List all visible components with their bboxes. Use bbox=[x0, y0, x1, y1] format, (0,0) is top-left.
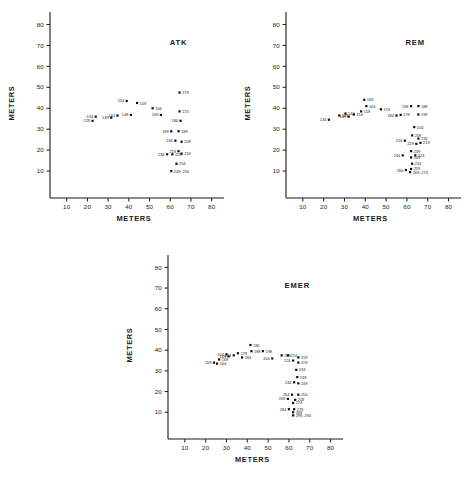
data-point-label: 229 bbox=[407, 141, 414, 146]
data-point-label: 214 bbox=[396, 138, 403, 143]
data-point-label: 194 bbox=[253, 343, 260, 348]
data-point-marker bbox=[177, 150, 179, 152]
data-point-label: 189 bbox=[421, 104, 428, 109]
data-point-marker bbox=[95, 116, 97, 118]
data-point-marker bbox=[297, 394, 299, 396]
data-point: 159 bbox=[136, 101, 146, 106]
scatter-plot-rem: 10203040506070801020304050607080METERSME… bbox=[236, 0, 473, 240]
x-tick-label: 70 bbox=[306, 444, 314, 451]
data-point-label: 184 bbox=[387, 113, 394, 118]
data-point-marker bbox=[417, 113, 419, 115]
data-point-label: 144 bbox=[108, 113, 115, 118]
y-tick-label: 10 bbox=[155, 408, 163, 415]
data-point-label: 134 bbox=[320, 117, 327, 122]
data-point-label: 189 bbox=[254, 349, 261, 354]
data-point-label: 169 bbox=[367, 97, 374, 102]
data-point-marker bbox=[410, 150, 412, 152]
data-point-marker bbox=[410, 156, 412, 158]
x-tick-label: 60 bbox=[403, 203, 411, 210]
data-point: 169 bbox=[363, 97, 373, 102]
y-tick-label: 80 bbox=[155, 264, 163, 271]
data-point-marker bbox=[170, 130, 172, 132]
data-point: 249 bbox=[297, 381, 307, 386]
y-tick-label: 80 bbox=[37, 21, 45, 28]
x-tick-label: 40 bbox=[244, 444, 252, 451]
data-point-marker bbox=[160, 114, 162, 116]
x-tick-label: 60 bbox=[285, 444, 293, 451]
data-point-label: 249 bbox=[414, 155, 421, 160]
data-point-marker bbox=[181, 141, 183, 143]
data-point: 164 bbox=[365, 104, 376, 109]
data-point: 169 bbox=[152, 112, 162, 117]
data-point-label: 149 bbox=[340, 114, 347, 119]
data-point: 244 bbox=[394, 153, 404, 158]
data-point-label: 199 bbox=[162, 129, 169, 134]
data-point-label: 199 bbox=[266, 349, 273, 354]
data-point-label: 229 bbox=[301, 360, 308, 365]
data-point-marker bbox=[365, 105, 367, 107]
figure-root: 10203040506070801020304050607080METERSME… bbox=[0, 0, 473, 481]
data-point: 229 bbox=[407, 141, 417, 146]
data-point-marker bbox=[281, 354, 283, 356]
data-point-marker bbox=[292, 402, 294, 404]
data-point-label: 189 bbox=[181, 129, 188, 134]
y-axis-title: METERS bbox=[125, 328, 134, 363]
data-point-marker bbox=[91, 120, 93, 122]
data-point-marker bbox=[170, 170, 172, 172]
data-point-marker bbox=[292, 414, 294, 416]
data-point-marker bbox=[411, 134, 413, 136]
y-tick-label: 10 bbox=[273, 167, 281, 174]
data-point-label: 204 bbox=[263, 356, 270, 361]
data-point-label: 244 bbox=[166, 138, 173, 143]
data-point: 164 bbox=[152, 106, 163, 111]
data-point-marker bbox=[409, 171, 411, 173]
data-point-marker bbox=[287, 354, 289, 356]
x-tick-label: 20 bbox=[202, 444, 210, 451]
data-point-label: 154 bbox=[118, 98, 125, 103]
panel-atk: 10203040506070801020304050607080METERSME… bbox=[0, 0, 236, 240]
data-point: 204 bbox=[263, 356, 273, 361]
data-point-marker bbox=[295, 369, 297, 371]
data-point-marker bbox=[380, 108, 382, 110]
x-tick-label: 10 bbox=[63, 203, 71, 210]
data-point-label: 264 bbox=[397, 168, 404, 173]
data-point: 299, 294 bbox=[292, 413, 312, 418]
x-tick-label: 50 bbox=[382, 203, 390, 210]
data-point: 264 bbox=[397, 168, 407, 173]
data-point-label: 249, 254 bbox=[174, 169, 190, 174]
data-point: 194 bbox=[402, 104, 412, 109]
data-point: 174 bbox=[225, 353, 235, 358]
data-point: 249, 254 bbox=[170, 169, 190, 174]
data-point: 189 bbox=[250, 349, 260, 354]
y-axis-title: METERS bbox=[243, 86, 252, 121]
x-axis-title: METERS bbox=[353, 214, 388, 223]
data-point-label: 274 bbox=[296, 400, 303, 405]
data-point: 149 bbox=[122, 112, 132, 117]
data-point-label: 224 bbox=[284, 358, 291, 363]
data-point-marker bbox=[216, 363, 218, 365]
data-point: 224 bbox=[181, 151, 192, 156]
data-point: 134 bbox=[320, 117, 330, 122]
data-point-marker bbox=[136, 102, 138, 104]
data-point-marker bbox=[288, 408, 290, 410]
data-point-marker bbox=[178, 91, 180, 93]
data-point: 199 bbox=[262, 349, 272, 354]
x-tick-label: 20 bbox=[320, 203, 328, 210]
data-point-label: 219 bbox=[423, 140, 430, 145]
y-tick-label: 30 bbox=[273, 125, 281, 132]
data-point: 284 bbox=[280, 407, 290, 412]
data-point-label: 199 bbox=[421, 112, 428, 117]
data-point-marker bbox=[181, 153, 183, 155]
data-point-marker bbox=[177, 130, 179, 132]
x-axis-title: METERS bbox=[117, 214, 152, 223]
panel-title: ATK bbox=[170, 38, 188, 47]
data-point: 204 bbox=[413, 125, 424, 130]
x-tick-label: 10 bbox=[181, 444, 189, 451]
data-point: 244 bbox=[285, 380, 295, 385]
data-point-marker bbox=[287, 398, 289, 400]
y-tick-label: 50 bbox=[155, 326, 163, 333]
data-point-marker bbox=[174, 140, 176, 142]
data-point-label: 194 bbox=[402, 104, 409, 109]
data-point-marker bbox=[116, 114, 118, 116]
data-point-marker bbox=[237, 352, 239, 354]
